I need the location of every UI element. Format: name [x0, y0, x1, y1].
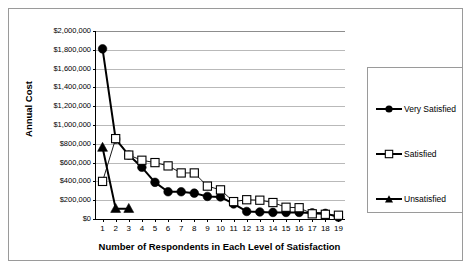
data-point-square: [112, 135, 120, 143]
data-point-circle: [190, 189, 199, 198]
series-satisfied: [98, 135, 342, 220]
x-axis-tick-mark: [142, 219, 143, 222]
chart-screenshot: Annual Cost $0$200,000$400,000$600,000$8…: [0, 0, 473, 278]
data-point-circle: [269, 208, 278, 217]
data-point-square: [98, 177, 106, 185]
data-point-square: [269, 198, 277, 206]
x-axis-tick-mark: [155, 219, 156, 222]
data-point-circle: [164, 187, 173, 196]
data-point-square: [243, 196, 251, 204]
data-point-circle: [98, 45, 107, 54]
x-axis-tick-label: 19: [330, 224, 346, 233]
filled-circle-icon: [376, 103, 402, 115]
x-axis-tick-mark: [234, 219, 235, 222]
data-point-circle: [242, 207, 251, 216]
y-axis-tick-label: $600,000: [29, 159, 91, 167]
y-axis-tick-label: $1,600,000: [29, 65, 91, 73]
plot-area: $0$200,000$400,000$600,000$800,000$1,000…: [95, 31, 345, 220]
data-point-square: [125, 151, 133, 159]
x-axis-tick-mark: [325, 219, 326, 222]
x-axis-tick-mark: [247, 219, 248, 222]
x-axis-tick-mark: [312, 219, 313, 222]
legend-label-unsatisfied: Unsatisfied: [404, 194, 446, 204]
chart-frame: Annual Cost $0$200,000$400,000$600,000$8…: [8, 8, 463, 261]
data-point-square: [295, 204, 303, 212]
y-axis-tick-label: $1,200,000: [29, 102, 91, 110]
x-axis-tick-mark: [286, 219, 287, 222]
data-point-square: [203, 182, 211, 190]
data-point-square: [308, 210, 316, 218]
data-point-square: [190, 169, 198, 177]
x-axis-tick-mark: [260, 219, 261, 222]
y-axis-tick-label: $400,000: [29, 177, 91, 185]
data-point-square: [256, 196, 264, 204]
x-axis-tick-mark: [221, 219, 222, 222]
x-axis-tick-mark: [168, 219, 169, 222]
x-axis-tick-mark: [181, 219, 182, 222]
x-axis-tick-mark: [129, 219, 130, 222]
filled-triangle-icon: [376, 193, 402, 205]
legend-item-unsatisfied[interactable]: Unsatisfied: [376, 192, 446, 206]
legend-item-satisfied[interactable]: Satisfied: [376, 147, 437, 161]
y-axis-tick-mark: [93, 219, 96, 220]
y-axis-tick-label: $2,000,000: [29, 27, 91, 35]
x-axis-tick-mark: [273, 219, 274, 222]
data-point-square: [151, 159, 159, 167]
data-point-circle: [203, 192, 212, 201]
x-axis-tick-mark: [299, 219, 300, 222]
y-axis-tick-label: $1,400,000: [29, 83, 91, 91]
data-point-circle: [177, 187, 186, 196]
data-point-circle: [256, 208, 265, 217]
data-point-square: [230, 198, 238, 206]
y-axis-tick-label: $1,000,000: [29, 121, 91, 129]
x-axis-tick-mark: [207, 219, 208, 222]
data-point-circle: [151, 178, 160, 187]
data-point-square: [334, 211, 342, 219]
data-point-square: [282, 203, 290, 211]
data-point-square: [164, 162, 172, 170]
y-axis-tick-label: $0: [29, 215, 91, 223]
x-axis-tick-mark: [194, 219, 195, 222]
y-axis-tick-label: $200,000: [29, 196, 91, 204]
y-axis-tick-label: $1,800,000: [29, 46, 91, 54]
open-square-icon: [376, 148, 402, 160]
data-point-square: [216, 186, 224, 194]
data-point-triangle: [98, 142, 108, 151]
series-very-satisfied: [98, 45, 342, 222]
y-axis-tick-label: $800,000: [29, 140, 91, 148]
x-axis-tick-mark: [116, 219, 117, 222]
data-point-square: [138, 156, 146, 164]
x-axis-tick-mark: [103, 219, 104, 222]
legend-item-very-satisfied[interactable]: Very Satisfied: [376, 102, 456, 116]
legend-label-very-satisfied: Very Satisfied: [404, 104, 456, 114]
data-point-square: [177, 169, 185, 177]
data-series-layer: [96, 31, 345, 219]
x-axis-title: Number of Respondents in Each Level of S…: [95, 241, 344, 252]
data-point-square: [321, 210, 329, 218]
chart-legend: Very Satisfied Satisfied Uns: [367, 67, 463, 213]
legend-label-satisfied: Satisfied: [404, 149, 437, 159]
